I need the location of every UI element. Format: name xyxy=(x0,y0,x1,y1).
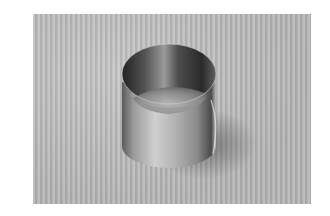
photo xyxy=(33,14,311,204)
ring-mold-illustration xyxy=(33,14,311,204)
